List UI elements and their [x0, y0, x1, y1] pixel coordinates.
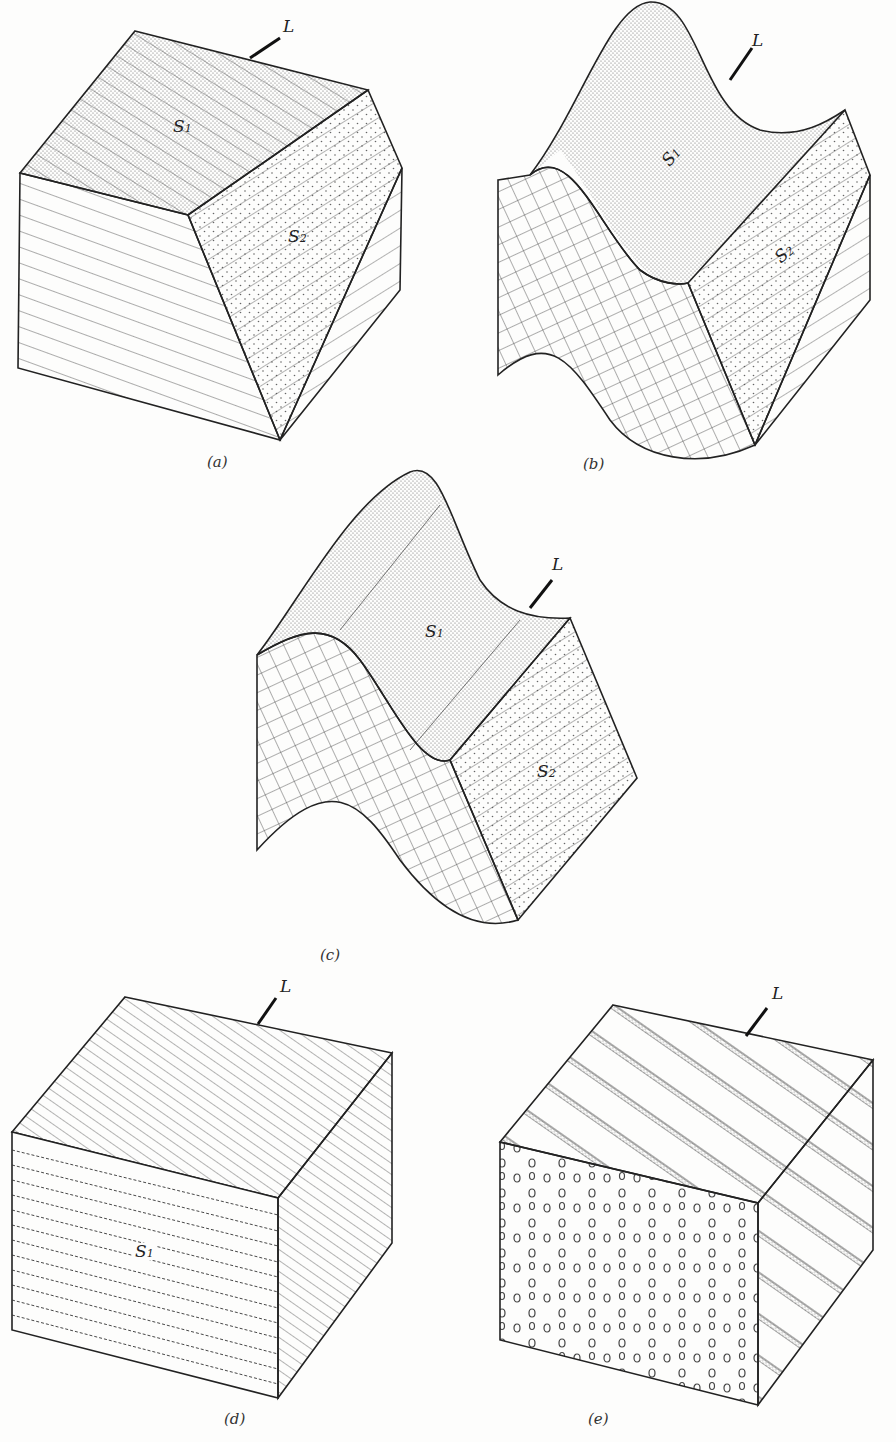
panel-d-s1-label: S1 [133, 1243, 156, 1260]
s2-letter: S [537, 761, 549, 781]
s2-subscript: 2 [549, 767, 556, 780]
s2-letter: S [288, 226, 300, 246]
panel-e-caption: (e) [588, 1410, 609, 1428]
panel-c-s1-label: S1 [425, 623, 444, 640]
panel-a-block [18, 31, 402, 440]
panel-b-caption: (b) [583, 455, 604, 473]
s1-subscript: 1 [185, 122, 192, 135]
panel-d-lineation-label: L [280, 978, 291, 995]
s1-letter: S [135, 1241, 147, 1261]
panel-e-block [500, 1005, 873, 1405]
s1-subscript: 1 [437, 627, 444, 640]
figure: L S1 S2 (a) L S1 S2 (b) L S1 S2 (c) L S1… [0, 0, 896, 1442]
panel-e-lineation-label: L [772, 985, 783, 1002]
panel-a-lineation-label: L [283, 18, 294, 35]
block-diagrams [0, 0, 896, 1442]
panel-c-lineation-label: L [552, 556, 563, 573]
s2-subscript: 2 [300, 232, 307, 245]
s1-subscript: 1 [147, 1247, 154, 1260]
s1-letter: S [425, 621, 437, 641]
panel-c-caption: (c) [320, 946, 340, 964]
panel-d-caption: (d) [224, 1410, 245, 1428]
panel-a-s2-label: S2 [288, 228, 307, 245]
panel-a-s1-label: S1 [173, 118, 192, 135]
panel-a-caption: (a) [207, 453, 228, 471]
panel-b-block [498, 2, 870, 459]
s1-letter: S [173, 116, 185, 136]
panel-b-lineation-label: L [752, 32, 763, 49]
panel-d-block [12, 997, 392, 1398]
panel-c-s2-label: S2 [537, 763, 556, 780]
panel-c-block [257, 470, 637, 923]
